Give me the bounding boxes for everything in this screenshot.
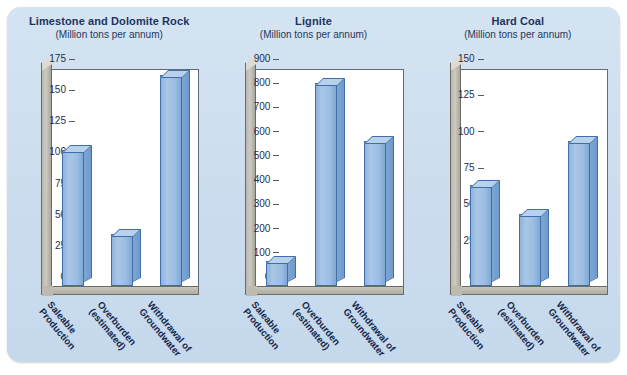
chart-1-plot-area: 0255075100125150175 xyxy=(41,63,199,295)
chart-3-bars xyxy=(461,69,608,286)
bar-3d-body xyxy=(470,185,500,286)
chart-2-ytick-mark xyxy=(273,59,279,60)
chart-2-ytick-label: 900 xyxy=(254,54,271,64)
chart-2-plot-area: 0100200300400500600700800900 xyxy=(245,63,403,295)
chart-3-plot-area: 0255075100125150 xyxy=(450,63,608,295)
chart-1-titles: Limestone and Dolomite Rock (Million ton… xyxy=(7,15,211,40)
chart-2-category-labels: SaleableProductionOverburden(estimated)W… xyxy=(256,299,403,369)
chart-2-bar-1[interactable] xyxy=(266,261,296,286)
chart-1-category-label-1: SaleableProduction xyxy=(37,299,86,352)
bar-3d-body xyxy=(364,141,394,286)
chart-3-category-label-2: Overburden(estimated) xyxy=(496,299,547,354)
chart-3-category-label-1: SaleableProduction xyxy=(446,299,495,352)
chart-1-bar-3[interactable] xyxy=(160,75,190,286)
chart-2-category-label-3: Withdrawal ofGroundwater xyxy=(341,299,398,361)
bar-front-face xyxy=(62,150,84,286)
chart-3-category-labels: SaleableProductionOverburden(estimated)W… xyxy=(461,299,608,369)
chart-3-floor xyxy=(450,286,608,295)
chart-1-bar-1[interactable] xyxy=(62,150,92,286)
chart-2-titles: Lignite (Million tons per annum) xyxy=(211,15,415,40)
bar-front-face xyxy=(364,141,386,286)
chart-2-floor xyxy=(245,286,403,295)
bar-3d-body xyxy=(266,261,296,286)
bar-3d-body xyxy=(315,83,345,286)
chart-1-category-label-3: Withdrawal ofGroundwater xyxy=(137,299,194,361)
chart-1-bars xyxy=(52,69,199,286)
chart-1-category-label-2: Overburden(estimated) xyxy=(87,299,138,354)
bar-side-face xyxy=(386,137,394,282)
chart-3-ytick-label: 150 xyxy=(458,54,475,64)
chart-2-bars xyxy=(256,69,403,286)
chart-1-ytick: 175 xyxy=(49,54,75,64)
bar-side-face xyxy=(541,209,549,282)
chart-1-ytick-mark xyxy=(69,59,75,60)
chart-2-subtitle: (Million tons per annum) xyxy=(211,29,415,40)
bar-front-face xyxy=(111,234,133,286)
bar-side-face xyxy=(182,71,190,282)
chart-3-titles: Hard Coal (Million tons per annum) xyxy=(416,15,620,40)
bar-front-face xyxy=(315,83,337,286)
bar-front-face xyxy=(160,75,182,286)
bar-side-face xyxy=(492,180,500,282)
bar-front-face xyxy=(568,141,590,286)
chart-1-ytick-label: 175 xyxy=(49,54,66,64)
chart-2-category-label-2: Overburden(estimated) xyxy=(291,299,342,354)
chart-limestone-and-dolomite-rock: Limestone and Dolomite Rock (Million ton… xyxy=(7,7,211,362)
bar-front-face xyxy=(470,185,492,286)
chart-2-ytick: 900 xyxy=(254,54,280,64)
chart-1-subtitle: (Million tons per annum) xyxy=(7,29,211,40)
chart-3-title: Hard Coal xyxy=(416,15,620,27)
chart-3-bar-1[interactable] xyxy=(470,185,500,286)
chart-3-ytick: 150 xyxy=(458,54,484,64)
chart-3-bar-2[interactable] xyxy=(519,214,549,286)
bar-3d-body xyxy=(519,214,549,286)
chart-3-category-label-3: Withdrawal ofGroundwater xyxy=(546,299,603,361)
chart-3-ytick-mark xyxy=(478,59,484,60)
chart-1-title: Limestone and Dolomite Rock xyxy=(7,15,211,27)
chart-2-bar-2[interactable] xyxy=(315,83,345,286)
bar-3d-body xyxy=(62,150,92,286)
chart-1-category-labels: SaleableProductionOverburden(estimated)W… xyxy=(52,299,199,369)
bar-side-face xyxy=(590,137,598,282)
chart-1-bar-2[interactable] xyxy=(111,234,141,286)
chart-3-bar-3[interactable] xyxy=(568,141,598,286)
bar-3d-body xyxy=(160,75,190,286)
chart-hard-coal: Hard Coal (Million tons per annum) 02550… xyxy=(416,7,620,362)
chart-2-bar-3[interactable] xyxy=(364,141,394,286)
bar-side-face xyxy=(84,145,92,282)
bar-side-face xyxy=(337,79,345,282)
figure-root: Limestone and Dolomite Rock (Million ton… xyxy=(0,0,627,375)
bar-front-face xyxy=(519,214,541,286)
bar-front-face xyxy=(266,261,288,286)
chart-2-category-label-1: SaleableProduction xyxy=(241,299,290,352)
chart-2-title: Lignite xyxy=(211,15,415,27)
bar-3d-body xyxy=(111,234,141,286)
chart-1-floor xyxy=(41,286,199,295)
bar-side-face xyxy=(133,230,141,282)
chart-row: Limestone and Dolomite Rock (Million ton… xyxy=(7,7,620,362)
bar-3d-body xyxy=(568,141,598,286)
chart-lignite: Lignite (Million tons per annum) 0100200… xyxy=(211,7,415,362)
chart-panel: Limestone and Dolomite Rock (Million ton… xyxy=(7,7,620,362)
chart-3-subtitle: (Million tons per annum) xyxy=(416,29,620,40)
